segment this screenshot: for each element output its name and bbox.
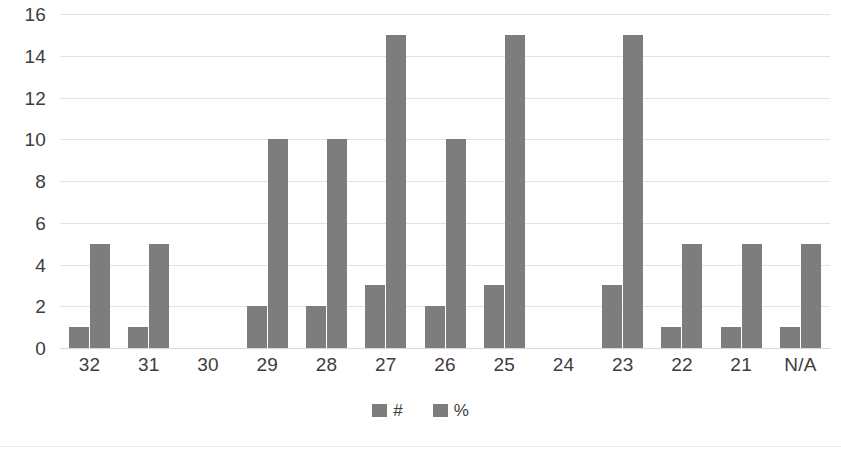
x-axis-tick-label: 31	[138, 355, 160, 374]
x-axis-tick-label: 22	[671, 355, 693, 374]
bar-group	[306, 14, 347, 348]
y-axis-tick-label: 8	[35, 172, 46, 191]
legend-item[interactable]: #	[372, 402, 402, 419]
legend-label: %	[454, 402, 469, 419]
bar-percent	[505, 35, 525, 348]
bar-group	[128, 14, 169, 348]
x-axis-tick-label: 25	[493, 355, 515, 374]
bar-count	[602, 285, 622, 348]
bar-group	[602, 14, 643, 348]
bar-count	[425, 306, 445, 348]
y-axis-tick-label: 16	[24, 5, 46, 24]
x-axis-tick-label: 27	[375, 355, 397, 374]
bar-chart: 0246810121416 323130292827262524232221N/…	[0, 0, 841, 454]
bar-percent	[623, 35, 643, 348]
legend-label: #	[393, 402, 402, 419]
bar-count	[306, 306, 326, 348]
y-axis-tick-label: 10	[24, 130, 46, 149]
bar-count	[780, 327, 800, 348]
bar-percent	[149, 244, 169, 348]
plot-area	[60, 14, 830, 348]
bar-percent	[90, 244, 110, 348]
y-axis-tick-label: 2	[35, 297, 46, 316]
bars-layer	[60, 14, 830, 348]
gridline	[60, 348, 830, 349]
bar-group	[543, 14, 584, 348]
x-axis-tick-label: 30	[197, 355, 219, 374]
bar-percent	[742, 244, 762, 348]
x-axis-tick-label: 26	[434, 355, 456, 374]
x-axis: 323130292827262524232221N/A	[60, 355, 830, 389]
bar-group	[780, 14, 821, 348]
bar-percent	[446, 139, 466, 348]
y-axis-tick-label: 14	[24, 46, 46, 65]
chart-legend: #%	[0, 402, 841, 419]
bar-percent	[801, 244, 821, 348]
scan-artifact-line	[0, 446, 841, 447]
bar-count	[661, 327, 681, 348]
x-axis-tick-label: 32	[79, 355, 101, 374]
y-axis-tick-label: 4	[35, 255, 46, 274]
legend-swatch-icon	[372, 404, 387, 417]
y-axis-tick-label: 12	[24, 88, 46, 107]
x-axis-tick-label: 23	[612, 355, 634, 374]
bar-count	[128, 327, 148, 348]
bar-group	[484, 14, 525, 348]
legend-swatch-icon	[433, 404, 448, 417]
bar-group	[69, 14, 110, 348]
bar-percent	[327, 139, 347, 348]
bar-group	[247, 14, 288, 348]
bar-group	[365, 14, 406, 348]
bar-count	[247, 306, 267, 348]
bar-group	[425, 14, 466, 348]
y-axis: 0246810121416	[0, 0, 56, 360]
bar-percent	[386, 35, 406, 348]
bar-percent	[682, 244, 702, 348]
x-axis-tick-label: 28	[316, 355, 338, 374]
bar-group	[188, 14, 229, 348]
bar-count	[365, 285, 385, 348]
bar-count	[69, 327, 89, 348]
bar-percent	[268, 139, 288, 348]
y-axis-tick-label: 6	[35, 213, 46, 232]
bar-count	[721, 327, 741, 348]
x-axis-tick-label: 24	[553, 355, 575, 374]
legend-item[interactable]: %	[433, 402, 469, 419]
x-axis-tick-label: 21	[730, 355, 752, 374]
bar-group	[661, 14, 702, 348]
x-axis-tick-label: 29	[257, 355, 279, 374]
bar-group	[721, 14, 762, 348]
bar-count	[484, 285, 504, 348]
x-axis-tick-label: N/A	[784, 355, 816, 374]
y-axis-tick-label: 0	[35, 339, 46, 358]
